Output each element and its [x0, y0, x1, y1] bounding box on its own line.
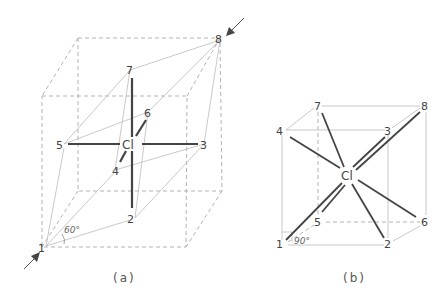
diagram-canvas: 8 7 6 5 Cl 3 4 2 1 60° (a) — [0, 0, 448, 297]
vertex-label-2: 2 — [127, 213, 134, 226]
vertex-label-8: 8 — [215, 33, 222, 46]
central-atom-cl: Cl — [122, 138, 134, 152]
vertex-label-4: 4 — [276, 125, 283, 138]
central-atom-cl: Cl — [341, 169, 353, 183]
vertex-label-5: 5 — [56, 139, 63, 152]
vertex-label-2: 2 — [384, 238, 391, 251]
panel-b-bonds — [286, 112, 420, 240]
caption-a: (a) — [113, 271, 136, 285]
vertex-label-5: 5 — [314, 216, 321, 229]
vertex-label-7: 7 — [126, 64, 133, 77]
vertex-label-3: 3 — [200, 139, 207, 152]
vertex-label-8: 8 — [421, 100, 428, 113]
vertex-label-1: 1 — [276, 238, 283, 251]
angle-label-60: 60° — [64, 225, 80, 235]
panel-a: 8 7 6 5 Cl 3 4 2 1 60° (a) — [24, 18, 244, 285]
vertex-label-6: 6 — [144, 107, 151, 120]
vertex-label-3: 3 — [384, 125, 391, 138]
arrow-into-vertex-8 — [226, 18, 244, 36]
vertex-label-4: 4 — [112, 165, 119, 178]
vertex-label-1: 1 — [38, 242, 45, 255]
vertex-label-7: 7 — [314, 100, 321, 113]
caption-b: (b) — [343, 271, 366, 285]
vertex-label-6: 6 — [421, 216, 428, 229]
panel-b: 7 8 4 3 Cl 5 6 1 2 90° (b) — [276, 100, 428, 285]
angle-label-90: 90° — [294, 236, 310, 246]
angle-arc-60 — [62, 234, 65, 244]
